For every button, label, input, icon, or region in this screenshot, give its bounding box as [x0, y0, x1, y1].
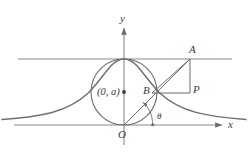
circle-center-label: (0, a) — [97, 87, 120, 98]
point-label-B: B — [143, 85, 150, 96]
angle-theta-label: θ — [157, 112, 161, 121]
point-label-P: P — [193, 84, 200, 95]
origin-label: O — [118, 129, 126, 140]
geometry-figure: y x O (0, a) A B P θ — [0, 0, 248, 156]
x-axis-label: x — [228, 119, 233, 130]
point-label-A: A — [189, 44, 196, 55]
segment-BA — [152, 59, 190, 93]
y-axis-label: y — [120, 13, 125, 24]
circle-center-dot — [122, 90, 126, 94]
